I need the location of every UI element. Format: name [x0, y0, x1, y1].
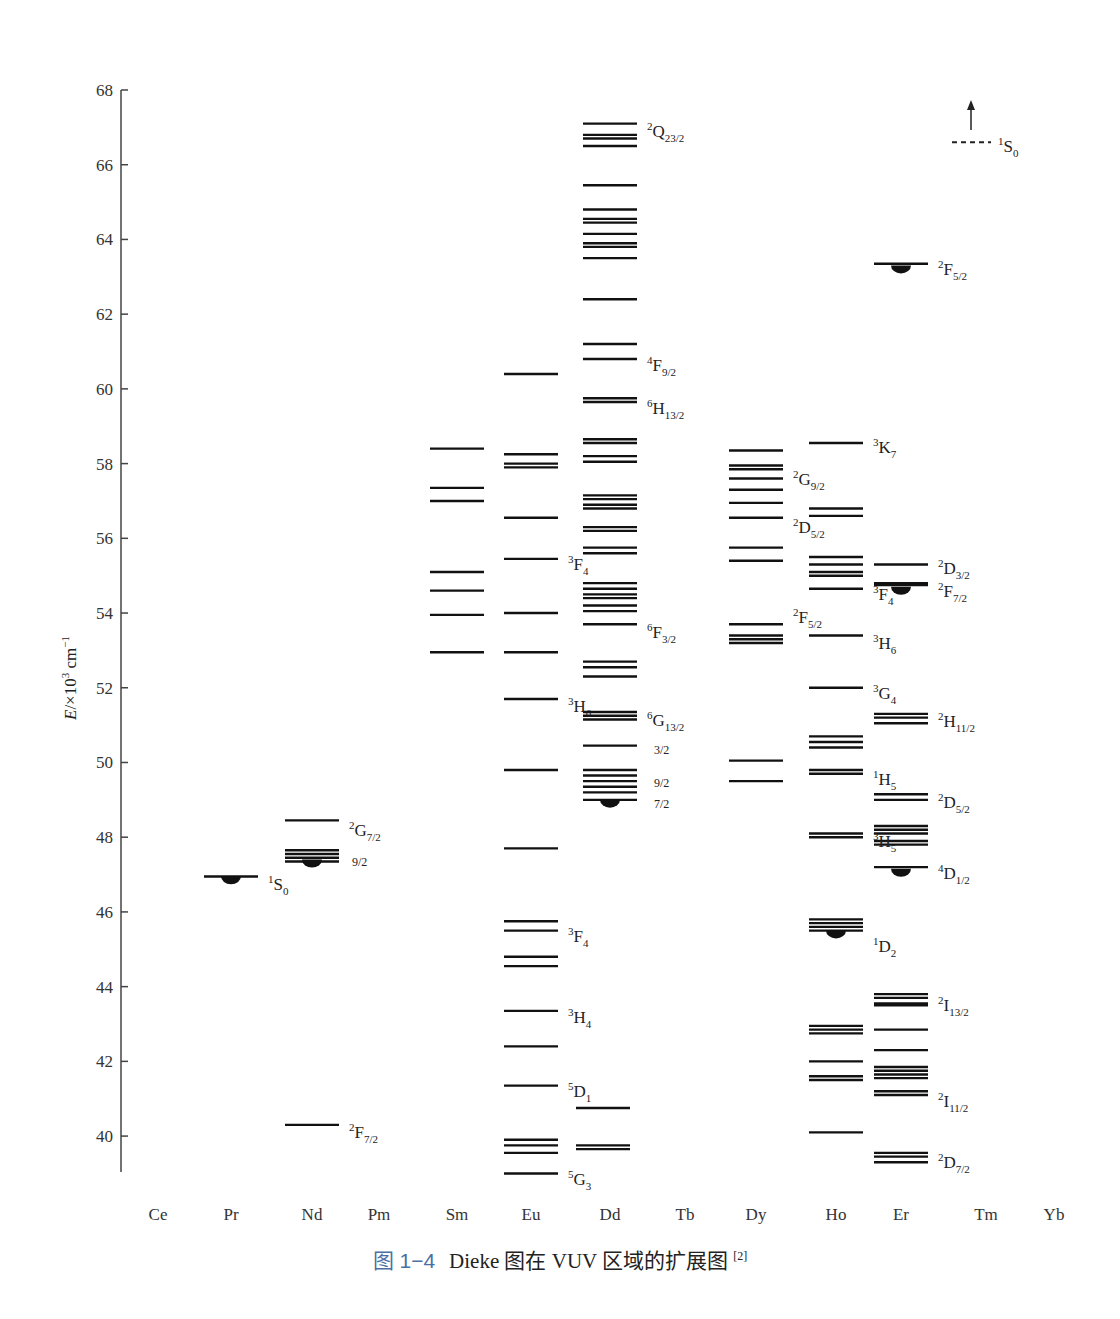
term-label: 1H5	[873, 768, 897, 792]
term-label: 9/2	[654, 776, 669, 790]
y-tick-label: 44	[96, 978, 114, 997]
level-bulb	[600, 800, 620, 808]
energy-level-chart: 404244464850525456586062646668 CePrNdPmS…	[0, 0, 1120, 1319]
y-tick-label: 62	[96, 305, 113, 324]
y-tick-label: 56	[96, 529, 113, 548]
x-category-label: Pr	[223, 1205, 238, 1224]
term-label: 9/2	[352, 855, 367, 869]
level-bulb	[891, 587, 911, 595]
term-label: 4D1/2	[938, 862, 970, 886]
term-label: 2G9/2	[793, 468, 825, 492]
term-label: 2I13/2	[938, 994, 969, 1018]
term-label: 2F5/2	[938, 258, 967, 282]
term-label: 1D2	[873, 935, 896, 959]
term-label: 2D7/2	[938, 1151, 970, 1175]
term-label: 2F5/2	[793, 606, 822, 630]
level-bulb	[826, 930, 846, 938]
y-tick-label: 60	[96, 380, 113, 399]
term-label: 1S0	[268, 873, 289, 897]
term-label: 3/2	[654, 743, 669, 757]
y-axis-label: E/×103 cm−1	[38, 560, 98, 760]
term-label: 3H6	[568, 695, 592, 719]
term-label: 2D5/2	[793, 516, 825, 540]
level-bulb	[891, 869, 911, 877]
y-tick-label: 40	[96, 1127, 113, 1146]
caption-text: Dieke 图在 VUV 区域的扩展图	[449, 1249, 728, 1273]
x-axis-element-labels: CePrNdPmSmEuDdTbDyHoErTmYb	[149, 1205, 1065, 1224]
term-label: 5G3	[568, 1168, 592, 1192]
term-label: 3F4	[568, 553, 589, 577]
x-category-label: Pm	[368, 1205, 391, 1224]
term-label: 5D1	[568, 1080, 591, 1104]
figure-number: 图 1−4	[373, 1249, 435, 1272]
arrowhead-icon	[967, 100, 975, 110]
y-tick-label: 54	[96, 604, 114, 623]
term-label: 2H11/2	[938, 710, 975, 734]
x-category-label: Sm	[446, 1205, 469, 1224]
y-tick-label: 68	[96, 81, 113, 100]
term-label: 2Q23/2	[647, 120, 684, 144]
term-label: 6G13/2	[647, 709, 684, 733]
term-label: 4F9/2	[647, 354, 676, 378]
term-label: 6F3/2	[647, 621, 676, 645]
x-category-label: Eu	[522, 1205, 541, 1224]
level-bulb	[221, 876, 241, 884]
term-label: 3K7	[873, 436, 897, 460]
x-category-label: Tm	[974, 1205, 998, 1224]
term-label: 3F4	[873, 583, 894, 607]
term-label: 3G4	[873, 682, 897, 706]
term-label: 3F4	[568, 925, 589, 949]
figure-caption: 图 1−4Dieke 图在 VUV 区域的扩展图 [2]	[0, 1244, 1120, 1274]
y-tick-label: 42	[96, 1052, 113, 1071]
x-category-label: Yb	[1044, 1205, 1065, 1224]
level-term-labels: 1S02G7/29/22F7/23F43H63F43H45D15G32Q23/2…	[268, 120, 1019, 1192]
x-category-label: Dy	[746, 1205, 767, 1224]
level-bulb	[891, 265, 911, 273]
x-category-label: Dd	[600, 1205, 621, 1224]
term-label: 3H4	[568, 1006, 592, 1030]
term-label: 2I11/2	[938, 1090, 968, 1114]
y-tick-label: 52	[96, 679, 113, 698]
y-tick-label: 66	[96, 156, 113, 175]
x-category-label: Ho	[826, 1205, 847, 1224]
term-label: 1S0	[998, 135, 1019, 159]
term-label: 3H6	[873, 632, 897, 656]
x-category-label: Tb	[676, 1205, 695, 1224]
y-tick-label: 46	[96, 903, 113, 922]
term-label: 6H13/2	[647, 397, 684, 421]
term-label: 2G7/2	[349, 819, 381, 843]
x-category-label: Ce	[149, 1205, 168, 1224]
term-label: 7/2	[654, 797, 669, 811]
y-tick-label: 48	[96, 828, 113, 847]
level-bulb	[302, 859, 322, 867]
term-label: 2D5/2	[938, 791, 970, 815]
y-tick-label: 64	[96, 230, 114, 249]
term-label: 2D3/2	[938, 557, 970, 581]
svg-text:E/×103 cm−1: E/×103 cm−1	[59, 636, 80, 721]
y-tick-label: 50	[96, 753, 113, 772]
x-category-label: Er	[893, 1205, 909, 1224]
caption-reference: [2]	[733, 1249, 747, 1263]
term-label: 2F7/2	[349, 1121, 378, 1145]
x-category-label: Nd	[302, 1205, 323, 1224]
y-axis: 404244464850525456586062646668	[96, 81, 128, 1172]
term-label: 2F7/2	[938, 580, 967, 604]
y-tick-label: 58	[96, 455, 113, 474]
